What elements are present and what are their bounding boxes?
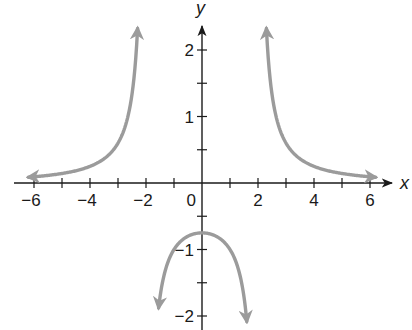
- y-tick-label: 2: [185, 41, 194, 60]
- y-axis-label: y: [194, 0, 206, 18]
- x-axis-tick-labels: −6−4−20246: [21, 191, 374, 210]
- function-graph: −6−4−20246 x 21−1−2 y: [0, 0, 412, 330]
- x-axis-label: x: [399, 173, 410, 193]
- x-axis: −6−4−20246 x: [14, 173, 410, 210]
- curve-right-branch: [266, 28, 375, 177]
- curve-middle-branch: [159, 233, 247, 322]
- y-tick-label: −2: [175, 307, 194, 326]
- curve-left-branch: [28, 28, 137, 177]
- y-axis: 21−1−2 y: [175, 0, 207, 330]
- x-tick-label: −6: [21, 191, 40, 210]
- x-tick-label: −2: [133, 191, 152, 210]
- x-tick-label: 0: [187, 191, 196, 210]
- x-tick-label: 2: [253, 191, 262, 210]
- x-tick-label: 6: [365, 191, 374, 210]
- x-tick-label: −4: [77, 191, 96, 210]
- y-tick-label: 1: [185, 108, 194, 127]
- x-tick-label: 4: [309, 191, 318, 210]
